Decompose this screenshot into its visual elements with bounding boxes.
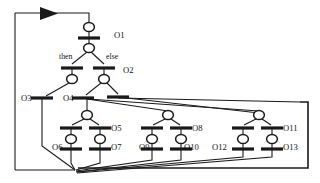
edge-place-to-else [91,52,104,64]
edge-rplace-to-t11b [262,119,271,125]
arrow-layer [40,7,58,20]
labels-layer: O1O2O3O4O5O6O7O8O9O10O11O12O13thenelse [21,30,298,152]
petri-net-figure: O1O2O3O4O5O6O7O8O9O10O11O12O13thenelse [0,0,320,183]
place-left-fork [82,110,93,119]
label-o5: O5 [111,123,122,133]
place-o6-input [66,134,77,143]
edge-elseplace-to-join [107,83,118,94]
place-o13-input [267,134,278,143]
petri-net-canvas: O1O2O3O4O5O6O7O8O9O10O11O12O13thenelse [0,0,320,183]
label-o8: O8 [192,123,203,133]
edge-lplace-to-t5a [72,119,84,125]
edge-lplace-to-t5b [90,119,99,125]
edge-mplace-to-t8a [153,119,165,125]
place-top [84,22,95,31]
label-o10: O10 [184,142,199,152]
label-o4: O4 [63,93,74,103]
place-o7-input [95,134,106,143]
place-else-branch [99,74,110,83]
label-o11: O11 [283,123,297,133]
label-o3: O3 [21,93,32,103]
place-o12-input [238,134,249,143]
edge-elseplace-to-o4 [86,83,101,95]
edge-rplace-to-t11a [244,119,256,125]
edge-place-to-then [72,52,87,64]
label-o6: O6 [52,142,63,152]
label-then: then [59,52,73,61]
place-right-fork [254,110,265,119]
label-o2: O2 [123,65,134,75]
place-mid-fork [163,110,174,119]
edge-mplace-to-t8b [171,119,180,125]
flow-arrowhead [40,7,58,20]
places-layer [66,22,278,143]
label-else: else [106,52,119,61]
label-o9: O9 [139,142,150,152]
label-o7: O7 [111,142,122,152]
edge-o7-out [76,150,100,170]
place-below-o1 [84,43,95,52]
label-o1: O1 [114,30,125,40]
place-then-branch [67,74,78,83]
label-o12: O12 [212,142,227,152]
label-o13: O13 [283,142,298,152]
